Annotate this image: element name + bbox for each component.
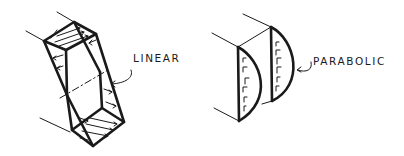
diagram-canvas xyxy=(0,0,404,156)
top-edge xyxy=(238,27,271,47)
linear-stress-figure xyxy=(26,12,132,146)
beam-edge-line xyxy=(243,14,271,27)
linear-label: LINEAR xyxy=(133,52,181,64)
front-parabola xyxy=(238,47,261,121)
section-left-edge xyxy=(66,50,67,95)
parabolic-stress-figure xyxy=(212,14,311,121)
leader-arrow xyxy=(112,70,132,84)
beam-edge-line xyxy=(57,12,74,22)
beam-edge-line xyxy=(214,108,239,121)
section-right-edge xyxy=(100,72,102,108)
leader-arrowhead xyxy=(297,67,301,72)
beam-edge-line xyxy=(212,33,238,47)
back-section-edge xyxy=(271,27,272,101)
leader-arrow xyxy=(298,62,311,71)
beam-edge-line xyxy=(40,118,70,132)
stress-ticks-back xyxy=(276,42,281,91)
parabolic-label: PARABOLIC xyxy=(313,55,386,67)
back-parabola xyxy=(271,27,293,101)
stress-ticks-front xyxy=(243,58,249,111)
beam-edge-line xyxy=(26,31,44,41)
bottom-edge xyxy=(262,101,272,104)
front-section-edge xyxy=(238,47,239,121)
